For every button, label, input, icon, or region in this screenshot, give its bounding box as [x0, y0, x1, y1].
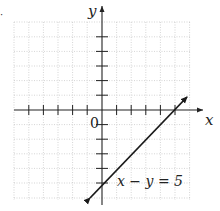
graph-canvas: y x 0 x − y = 5 ·	[0, 0, 220, 211]
equation-label: x − y = 5	[117, 173, 183, 189]
stray-mark: ·	[0, 9, 3, 20]
x-axis-label: x	[205, 111, 214, 129]
y-axis-label: y	[87, 2, 97, 20]
origin-label: 0	[90, 115, 99, 131]
